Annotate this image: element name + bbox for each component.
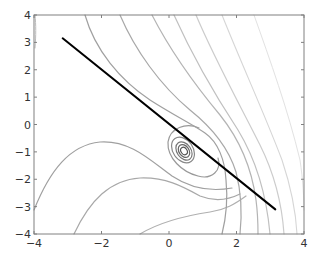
y-tick-label: −2 [15,173,31,186]
y-tick-label: 4 [24,9,31,22]
x-axis-ticks: −4−2024 [26,15,308,250]
y-tick-label: −3 [15,201,31,214]
y-tick-label: −4 [15,228,31,241]
y-axis-ticks: −4−3−2−101234 [15,9,304,241]
y-tick-label: 3 [24,36,31,49]
x-tick-label: −2 [93,237,109,250]
y-tick-label: 1 [24,91,31,104]
y-tick-label: 0 [24,119,31,132]
x-tick-label: 2 [233,237,240,250]
y-tick-label: −1 [15,146,31,159]
x-tick-label: 4 [301,237,308,250]
x-tick-label: 0 [166,237,173,250]
contour-plot: −4−2024 −4−3−2−101234 [0,0,321,256]
y-tick-label: 2 [24,64,31,77]
black-line-series [63,38,276,209]
